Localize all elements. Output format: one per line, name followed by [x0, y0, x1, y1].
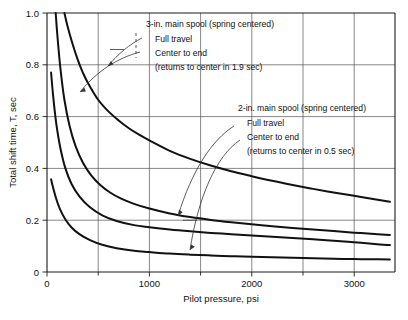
- ytick-label-0.2: 0.2: [26, 215, 39, 226]
- xtick-label-0: 0: [44, 278, 49, 289]
- annot-3in-line4: (returns to center in 1.9 sec): [155, 62, 263, 72]
- annot-2in-line1: 2-in. main spool (spring centered): [238, 103, 366, 113]
- y-axis-title: Total shift time, T, sec: [7, 97, 18, 188]
- xtick-label-3000: 3000: [344, 278, 365, 289]
- xtick-label-1000: 1000: [139, 278, 160, 289]
- annot-3in-line3: Center to end: [155, 48, 207, 58]
- annot-2in-line3: Center to end: [247, 132, 299, 142]
- annot-2in-line2: Full travel: [247, 118, 284, 128]
- xtick-label-2000: 2000: [241, 278, 262, 289]
- ytick-label-0: 0: [34, 267, 39, 278]
- annot-3in-line2: Full travel: [155, 34, 192, 44]
- annot-3in-line1: 3-in. main spool (spring centered): [146, 19, 274, 29]
- ytick-label-0.8: 0.8: [26, 59, 39, 70]
- annot-2in-line4: (returns to center in 0.5 sec): [247, 146, 355, 156]
- chart-svg: 0 0.2 0.4 0.6 0.8 1.0 0 1000 2000 3000 P…: [0, 0, 408, 320]
- x-axis-title: Pilot pressure, psi: [183, 293, 259, 304]
- ytick-label-1.0: 1.0: [26, 8, 39, 19]
- ytick-label-0.4: 0.4: [26, 163, 39, 174]
- ytick-label-0.6: 0.6: [26, 111, 39, 122]
- chart-container: 0 0.2 0.4 0.6 0.8 1.0 0 1000 2000 3000 P…: [0, 0, 408, 320]
